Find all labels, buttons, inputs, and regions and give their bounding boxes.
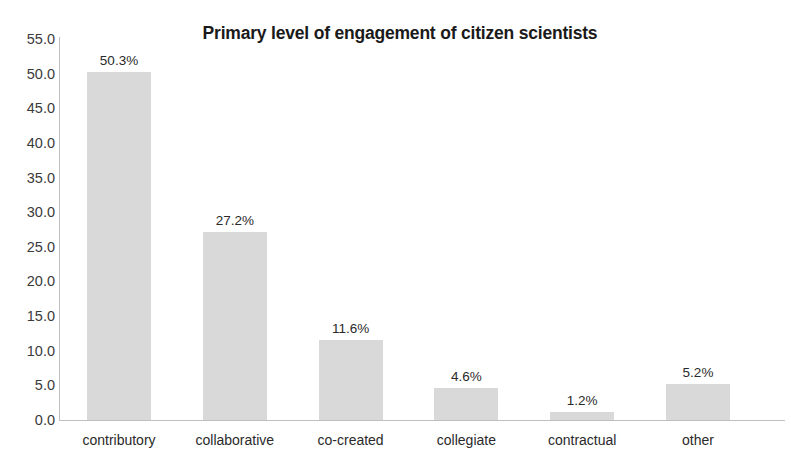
bar-value-label: 27.2% [185, 213, 285, 228]
bar-value-label: 50.3% [69, 53, 169, 68]
bar[interactable] [434, 388, 498, 420]
y-axis-tick-label: 50.0 [3, 66, 55, 82]
bar-value-label: 1.2% [532, 393, 632, 408]
y-axis-tick-label: 40.0 [3, 135, 55, 151]
bar-group: 1.2% [550, 39, 614, 420]
x-axis-tick-label: other [628, 432, 768, 448]
bar-group: 11.6% [319, 39, 383, 420]
bar-group: 50.3% [87, 39, 151, 420]
y-axis-tick-labels: 55.050.045.040.035.030.025.020.015.010.0… [0, 0, 55, 473]
bar[interactable] [203, 232, 267, 420]
bar[interactable] [666, 384, 730, 420]
y-axis-tick-label: 0.0 [3, 412, 55, 428]
bar[interactable] [319, 340, 383, 420]
bar-value-label: 4.6% [416, 369, 516, 384]
y-axis-tick-label: 20.0 [3, 273, 55, 289]
bar[interactable] [87, 72, 151, 420]
bar[interactable] [550, 412, 614, 420]
bar-group: 27.2% [203, 39, 267, 420]
x-axis-line [59, 420, 785, 421]
plot-area: 50.3%27.2%11.6%4.6%1.2%5.2% [60, 39, 785, 420]
bar-group: 5.2% [666, 39, 730, 420]
bar-chart: Primary level of engagement of citizen s… [0, 0, 791, 473]
bar-value-label: 5.2% [648, 365, 748, 380]
y-axis-tick-label: 10.0 [3, 343, 55, 359]
y-axis-tick-label: 45.0 [3, 100, 55, 116]
bar-value-label: 11.6% [301, 321, 401, 336]
y-axis-tick-label: 25.0 [3, 239, 55, 255]
y-axis-tick-label: 5.0 [3, 377, 55, 393]
bar-group: 4.6% [434, 39, 498, 420]
y-axis-tick-label: 35.0 [3, 170, 55, 186]
y-axis-tick-label: 15.0 [3, 308, 55, 324]
y-axis-tick-label: 55.0 [3, 31, 55, 47]
y-axis-tick-label: 30.0 [3, 204, 55, 220]
